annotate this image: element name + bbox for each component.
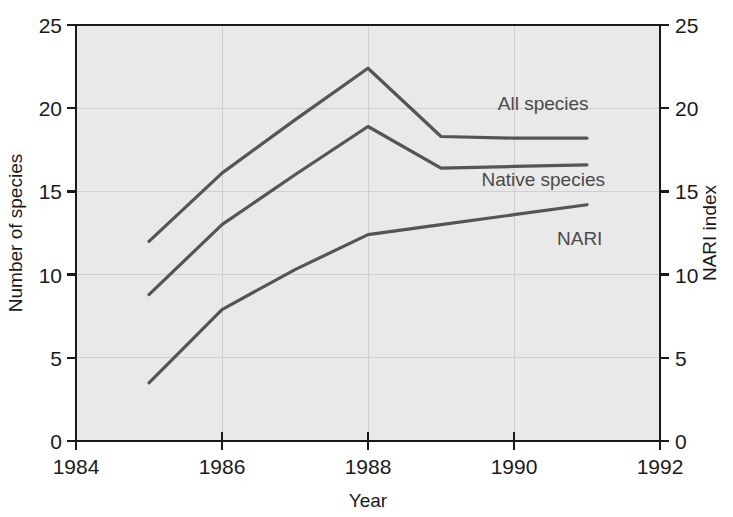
y2-tick-label-5: 5	[675, 347, 687, 370]
x-tick-label-1992: 1992	[637, 455, 684, 478]
chart-container: 25 20 15 10 5 0 25 20 15 10 5 0 1984 198…	[0, 0, 733, 517]
x-tick-label-1986: 1986	[199, 455, 246, 478]
y-tick-label-5: 5	[50, 347, 62, 370]
y-tick-label-15: 15	[39, 180, 62, 203]
x-tick-label-1984: 1984	[53, 455, 100, 478]
x-axis-title: Year	[349, 490, 388, 511]
y-tick-label-25: 25	[39, 14, 62, 37]
y2-tick-label-15: 15	[675, 180, 698, 203]
y-tick-label-10: 10	[39, 264, 62, 287]
y-tick-label-0: 0	[50, 430, 62, 453]
x-tick-label-1990: 1990	[491, 455, 538, 478]
y2-axis-tick-labels: 25 20 15 10 5 0	[675, 14, 698, 453]
line-chart: 25 20 15 10 5 0 25 20 15 10 5 0 1984 198…	[0, 0, 733, 517]
series-label-nari: NARI	[557, 228, 602, 249]
y-axis-title: Number of species	[5, 154, 26, 312]
y2-tick-label-20: 20	[675, 97, 698, 120]
y2-tick-label-0: 0	[675, 430, 687, 453]
y2-axis-title: NARI index	[699, 184, 720, 281]
x-tick-label-1988: 1988	[345, 455, 392, 478]
series-label-all-species: All species	[498, 93, 589, 114]
x-axis-tick-labels: 1984 1986 1988 1990 1992	[53, 455, 684, 478]
y2-tick-label-10: 10	[675, 264, 698, 287]
y-axis-tick-labels: 25 20 15 10 5 0	[39, 14, 62, 453]
y2-tick-label-25: 25	[675, 14, 698, 37]
series-label-native-species: Native species	[481, 169, 605, 190]
y-tick-label-20: 20	[39, 97, 62, 120]
